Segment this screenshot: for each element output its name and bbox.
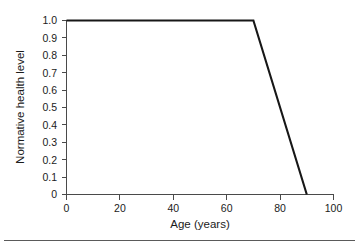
- y-axis-title: Normative health level: [14, 50, 26, 164]
- y-tick-label-0.1: 0.1: [42, 171, 57, 183]
- normative-health-level-line-chart: 1.0 0.9 0.8 0.7 0.6 0.5 0.4 0.3 0.2 0.1 …: [0, 0, 359, 249]
- y-tick-label-0: 0: [51, 188, 57, 200]
- y-tick-label-0.6: 0.6: [42, 84, 57, 96]
- x-tick-label-20: 20: [114, 202, 126, 214]
- x-tick-label-0: 0: [64, 202, 70, 214]
- y-tick-label-0.3: 0.3: [42, 136, 57, 148]
- y-tick-label-0.4: 0.4: [42, 119, 57, 131]
- y-tick-label-0.9: 0.9: [42, 32, 57, 44]
- y-tick-label-0.2: 0.2: [42, 154, 57, 166]
- y-tick-label-0.7: 0.7: [42, 67, 57, 79]
- x-tick-label-60: 60: [221, 202, 233, 214]
- y-tick-label-0.5: 0.5: [42, 101, 57, 113]
- x-tick-label-100: 100: [325, 202, 343, 214]
- chart-figure: 1.0 0.9 0.8 0.7 0.6 0.5 0.4 0.3 0.2 0.1 …: [0, 0, 359, 249]
- x-axis-title: Age (years): [170, 218, 230, 230]
- y-tick-label-1.0: 1.0: [42, 14, 57, 26]
- y-tick-label-0.8: 0.8: [42, 49, 57, 61]
- x-tick-label-40: 40: [167, 202, 179, 214]
- x-tick-label-80: 80: [274, 202, 286, 214]
- y-axis-tick-labels: 1.0 0.9 0.8 0.7 0.6 0.5 0.4 0.3 0.2 0.1 …: [42, 14, 57, 200]
